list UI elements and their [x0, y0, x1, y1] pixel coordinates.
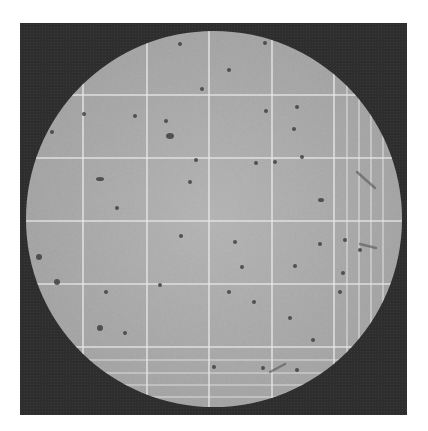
particle — [179, 234, 183, 238]
particle — [164, 119, 168, 123]
particle — [343, 238, 347, 242]
particle — [288, 316, 292, 320]
particle — [261, 366, 265, 370]
field-grain — [20, 23, 407, 415]
particle — [54, 279, 60, 285]
particle — [36, 254, 42, 260]
particle — [227, 290, 231, 294]
particle — [133, 114, 137, 118]
particle — [254, 161, 258, 165]
particle — [318, 242, 322, 246]
particle — [318, 198, 324, 202]
particle — [178, 42, 182, 46]
particle — [300, 155, 304, 159]
particle — [97, 325, 103, 331]
particle — [295, 368, 299, 372]
particle — [166, 133, 174, 139]
particle — [123, 331, 127, 335]
particle — [104, 290, 108, 294]
particle — [295, 105, 299, 109]
particle — [158, 283, 162, 287]
particle — [263, 41, 267, 45]
particle — [212, 365, 216, 369]
particle — [273, 160, 277, 164]
particle — [50, 130, 54, 134]
particle — [194, 158, 198, 162]
particle — [311, 338, 315, 342]
particle — [358, 248, 362, 252]
particle — [293, 264, 297, 268]
particle — [292, 127, 296, 131]
particle — [264, 109, 268, 113]
particle — [233, 240, 237, 244]
particle — [188, 180, 192, 184]
particle — [227, 68, 231, 72]
particle — [252, 300, 256, 304]
particle — [338, 290, 342, 294]
particle — [200, 87, 204, 91]
counting-chamber-micrograph — [0, 0, 428, 431]
particle — [115, 206, 119, 210]
particle — [96, 177, 104, 181]
particle — [82, 112, 86, 116]
particle — [341, 271, 345, 275]
particle — [240, 265, 244, 269]
